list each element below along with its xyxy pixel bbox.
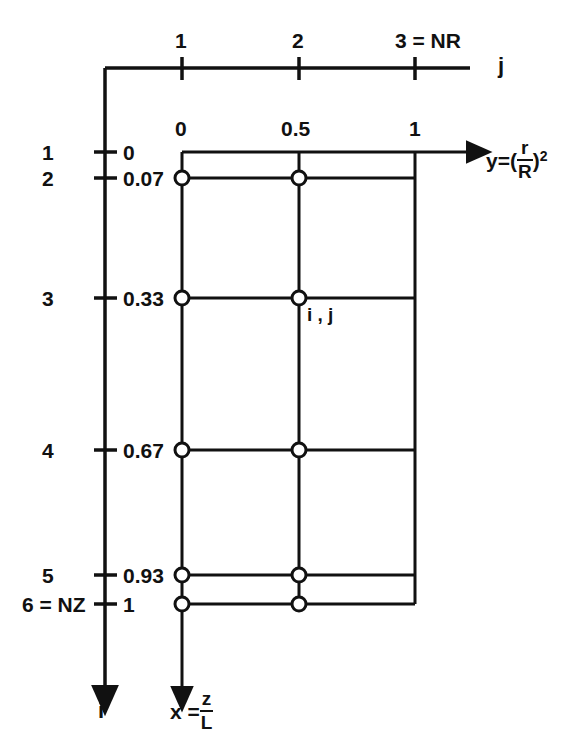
x-axis-title: x = z L — [170, 690, 213, 734]
y-tick-label-007: 0.07 — [123, 168, 164, 189]
y-tick-label-1: 1 — [123, 594, 135, 615]
node-marker — [175, 443, 189, 457]
node-marker — [175, 291, 189, 305]
x-axis-title-fraction: z L — [200, 689, 214, 733]
node-marker — [292, 568, 306, 582]
node-marker — [175, 568, 189, 582]
y-tick-label-067: 0.67 — [123, 440, 164, 461]
x-axis-title-denominator: L — [200, 713, 214, 733]
y-axis-title-exponent: 2 — [540, 149, 548, 163]
grid-rows — [182, 152, 470, 604]
grid-nodes — [175, 171, 306, 611]
i-index-label-2: 2 — [42, 168, 54, 189]
y-tick-label-093: 0.93 — [123, 565, 164, 586]
node-marker — [292, 597, 306, 611]
j-index-label-3: 3 = NR — [395, 30, 461, 51]
i-index-label-3: 3 — [42, 288, 54, 309]
node-marker — [175, 171, 189, 185]
x-axis-title-numerator: z — [200, 689, 214, 709]
i-index-label-5: 5 — [42, 565, 54, 586]
y-axis-title-close: ) — [533, 150, 540, 171]
j-index-label-2: 2 — [292, 30, 304, 51]
node-annotation-label: i , j — [307, 305, 333, 324]
j-axis-name: j — [498, 55, 504, 77]
y-axis-title-fraction: r R — [517, 138, 533, 182]
node-marker — [175, 597, 189, 611]
y-axis-title: y=( r R ) 2 — [486, 139, 547, 183]
i-index-label-1: 1 — [42, 142, 54, 163]
y-axis-title-numerator: r — [517, 138, 533, 158]
y-tick-label-0: 0 — [123, 142, 135, 163]
x-tick-label-05: 0.5 — [281, 118, 310, 139]
y-axis-title-lead: y=( — [486, 150, 517, 171]
i-axis-arrow-label: i — [98, 700, 104, 722]
node-marker-ij — [292, 291, 306, 305]
y-tick-label-033: 0.33 — [123, 288, 164, 309]
i-index-label-6: 6 = NZ — [22, 594, 86, 615]
i-index-label-4: 4 — [42, 440, 54, 461]
grid-schematic-figure: 1 2 3 = NR j 0 0.5 1 1 2 3 4 5 6 = NZ 0 … — [0, 0, 561, 754]
node-marker — [292, 171, 306, 185]
x-tick-label-1: 1 — [409, 118, 421, 139]
diagram-canvas — [0, 0, 561, 754]
x-axis-title-lead: x = — [170, 701, 200, 722]
x-tick-label-0: 0 — [175, 118, 187, 139]
y-axis-title-denominator: R — [517, 162, 533, 182]
j-index-label-1: 1 — [175, 30, 187, 51]
node-marker — [292, 443, 306, 457]
